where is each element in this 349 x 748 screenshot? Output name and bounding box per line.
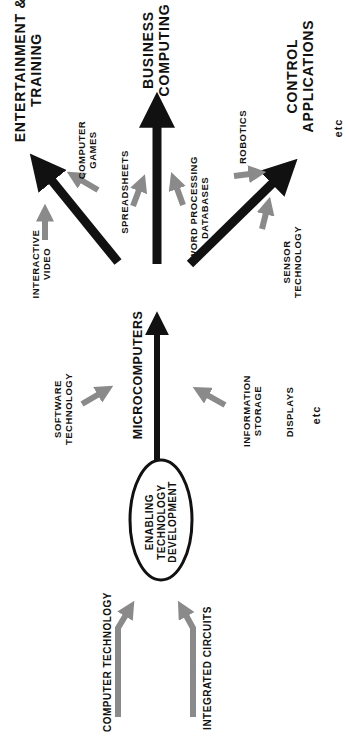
arrow-word-processing bbox=[174, 180, 183, 205]
label-word-processing-databases: WORD PROCESSING DATABASES bbox=[189, 156, 211, 260]
arrow-software-technology bbox=[82, 390, 106, 404]
label-integrated-circuits: INTEGRATED CIRCUITS bbox=[202, 606, 214, 730]
arrow-information-storage bbox=[200, 391, 225, 405]
label-spreadsheets: SPREADSHEETS bbox=[120, 150, 131, 234]
label-entertainment-training: ENTERTAINMENT & TRAINING bbox=[12, 0, 44, 142]
label-robotics: ROBOTICS bbox=[238, 110, 249, 164]
label-outcomes-etc: etc bbox=[332, 119, 345, 138]
arrow-computer-technology bbox=[118, 608, 130, 717]
label-business-computing: BUSINESS COMPUTING bbox=[140, 4, 172, 97]
technology-diagram: ENTERTAINMENT & TRAINING BUSINESS COMPUT… bbox=[0, 0, 349, 748]
label-software-technology: SOFTWARE TECHNOLOGY bbox=[53, 373, 75, 445]
label-interactive-video: INTERACTIVE VIDEO bbox=[31, 230, 53, 299]
arrow-spreadsheets bbox=[133, 182, 142, 206]
label-displays: DISPLAYS bbox=[285, 387, 296, 438]
arrow-robotics bbox=[234, 173, 258, 176]
label-middle-etc: etc bbox=[310, 406, 323, 425]
label-sensor-technology: SENSOR TECHNOLOGY bbox=[282, 226, 304, 298]
label-microcomputers: MICROCOMPUTERS bbox=[131, 311, 145, 440]
label-control-applications: CONTROL APPLICATIONS bbox=[284, 20, 316, 133]
label-information-storage: INFORMATION STORAGE bbox=[242, 375, 264, 447]
arrow-sensor-technology bbox=[262, 205, 268, 229]
arrow-integrated-circuits bbox=[182, 608, 193, 717]
label-computer-games: COMPUTER GAMES bbox=[77, 121, 99, 179]
label-computer-technology: COMPUTER TECHNOLOGY bbox=[102, 592, 114, 732]
label-enabling-technology-development: ENABLING TECHNOLOGY DEVELOPMENT bbox=[144, 481, 179, 563]
